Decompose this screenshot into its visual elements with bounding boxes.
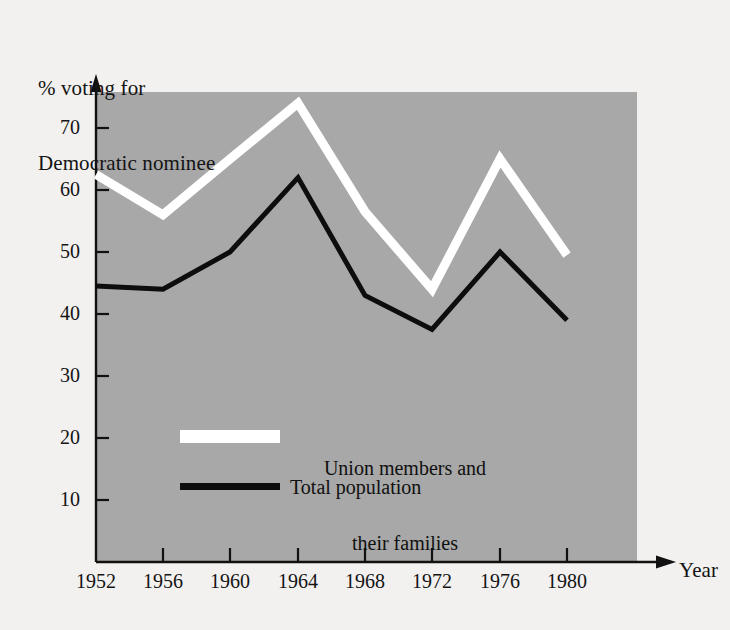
- legend-label-union-members: Union members and their families: [290, 406, 520, 606]
- x-tick-label-1956: 1956: [125, 570, 201, 593]
- y-axis-title-line1: % voting for: [38, 76, 215, 101]
- legend-label-total-population: Total population: [290, 475, 421, 500]
- y-tick-label-70: 70: [34, 116, 80, 139]
- x-tick-label-1980: 1980: [529, 570, 605, 593]
- y-tick-label-40: 40: [34, 302, 80, 325]
- legend-swatch-total-population: [180, 483, 280, 490]
- chart-figure: % voting for Democratic nominee Year 70 …: [0, 0, 730, 630]
- y-tick-label-30: 30: [34, 364, 80, 387]
- legend-label-union-members-line2: their families: [290, 531, 520, 556]
- x-tick-label-1952: 1952: [58, 570, 134, 593]
- x-tick-label-1960: 1960: [192, 570, 268, 593]
- legend-swatch-union-members: [180, 430, 280, 443]
- y-axis-title-line2: Democratic nominee: [38, 151, 215, 176]
- y-tick-label-60: 60: [34, 178, 80, 201]
- y-tick-label-10: 10: [34, 488, 80, 511]
- y-tick-label-50: 50: [34, 240, 80, 263]
- x-axis-title: Year: [679, 558, 718, 583]
- x-axis-arrowhead: [656, 556, 676, 569]
- y-tick-label-20: 20: [34, 426, 80, 449]
